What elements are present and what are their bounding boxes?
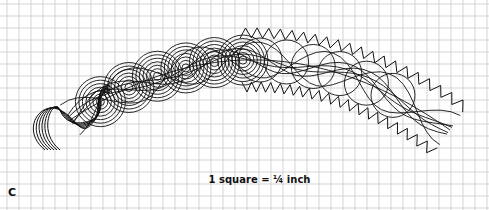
graph-paper-figure: 1 square = ¼ inch C [0,0,489,210]
panel-label: C [8,186,16,199]
scale-note: 1 square = ¼ inch [0,174,489,185]
